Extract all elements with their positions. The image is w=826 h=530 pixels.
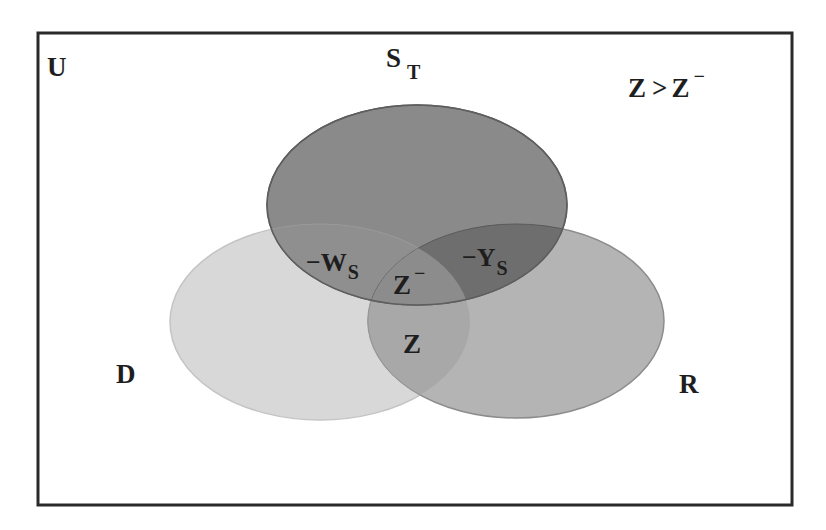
set-r-label: R: [679, 369, 699, 399]
venn-diagram: U ST Z>Z− −WS Z− −YS Z D R: [0, 0, 826, 530]
region-d-and-r-label: Z: [403, 329, 421, 359]
set-d-label: D: [116, 359, 136, 389]
set-s-subscript: T: [407, 61, 421, 83]
universe-label: U: [47, 52, 67, 82]
